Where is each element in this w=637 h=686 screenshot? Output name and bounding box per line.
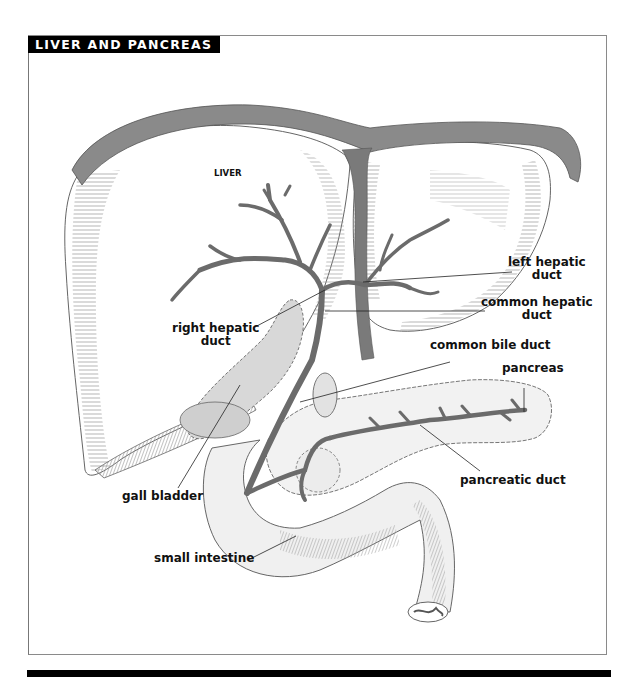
label-right-hepatic-duct: right hepatic duct (172, 322, 259, 348)
label-line: duct (481, 309, 593, 322)
label-common-bile-duct: common bile duct (430, 339, 550, 352)
label-common-hepatic-duct: common hepatic duct (481, 296, 593, 322)
label-left-hepatic-duct: left hepatic duct (508, 256, 586, 282)
label-gall-bladder: gall bladder (122, 490, 203, 503)
label-pancreatic-duct: pancreatic duct (460, 474, 566, 487)
label-liver: LIVER (214, 167, 242, 180)
label-line: duct (508, 269, 586, 282)
label-pancreas: pancreas (502, 362, 564, 375)
figure-title: LIVER AND PANCREAS (28, 36, 220, 53)
label-small-intestine: small intestine (154, 552, 254, 565)
label-line: duct (172, 335, 259, 348)
bottom-rule (27, 670, 611, 677)
